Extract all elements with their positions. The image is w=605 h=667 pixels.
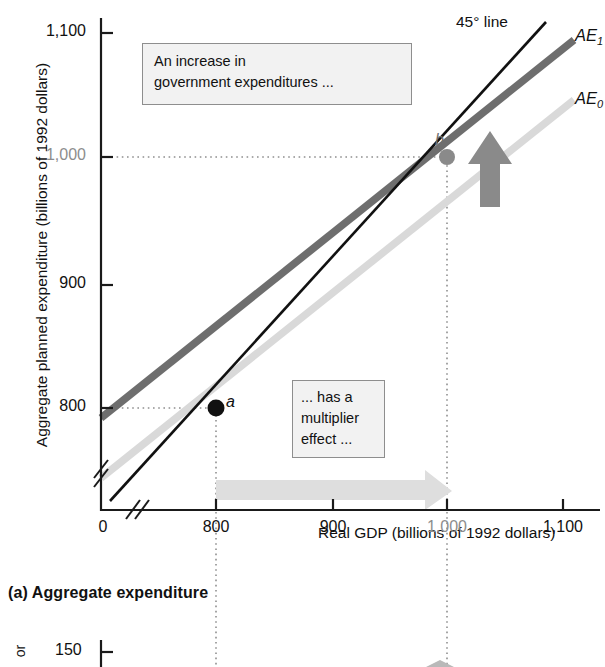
- y-tick-900: 900: [12, 274, 86, 292]
- guide-lines: [101, 157, 447, 510]
- point-a-marker: [208, 400, 225, 417]
- x-tick-1000: 1,000: [407, 518, 487, 536]
- panel-b-arrow-fragment: [426, 660, 454, 667]
- curve-label-45-degree-line: 45° line: [456, 13, 508, 31]
- point-b-marker: [439, 149, 455, 165]
- callout-multiplier-line3: effect ...: [301, 429, 376, 450]
- figure-caption: (a) Aggregate expenditure: [8, 584, 208, 602]
- point-label-a: a: [226, 393, 235, 411]
- curve-label-ae1-subscript: 1: [597, 35, 603, 47]
- panel-b-tick-150: 150: [55, 641, 82, 659]
- y-tick-1100: 1,100: [12, 22, 86, 40]
- callout-multiplier-line2: multiplier: [301, 408, 376, 429]
- callout-increase-in-government-expenditures: An increase in government expenditures .…: [142, 43, 412, 105]
- curve-label-ae1-text: AE: [575, 26, 597, 44]
- callout-multiplier-line1: ... has a: [301, 387, 376, 408]
- callout-increase-line1: An increase in: [154, 51, 401, 72]
- y-tick-800: 800: [12, 397, 86, 415]
- curve-label-ae0-text: AE: [575, 89, 597, 107]
- x-tick-900: 900: [293, 518, 373, 536]
- callout-multiplier-effect: ... has a multiplier effect ...: [292, 380, 385, 458]
- point-label-b: b: [435, 131, 444, 149]
- shift-arrow-up: [468, 131, 512, 207]
- panel-b-fragment: [101, 640, 113, 667]
- x-tick-1100: 1,100: [523, 518, 603, 536]
- x-tick-800: 800: [176, 518, 256, 536]
- figure-aggregate-expenditure: Aggregate planned expenditure (billions …: [0, 0, 605, 667]
- y-tick-1000: 1,000: [12, 146, 86, 164]
- curve-label-ae0: AE0: [575, 89, 603, 110]
- curve-label-ae1: AE1: [575, 26, 603, 47]
- x-tick-0: 0: [63, 518, 143, 536]
- curve-label-ae0-subscript: 0: [597, 98, 603, 110]
- panel-b-y-axis-title-fragment: or: [12, 628, 28, 667]
- callout-increase-line2: government expenditures ...: [154, 72, 401, 93]
